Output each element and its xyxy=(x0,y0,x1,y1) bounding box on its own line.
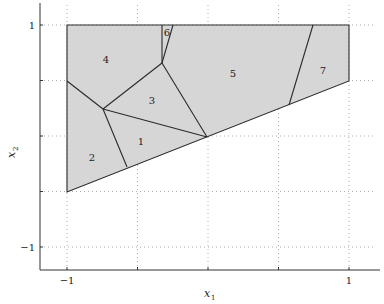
region-label-7: 7 xyxy=(320,65,326,76)
x-axis-label: x 1 xyxy=(204,287,215,302)
svg-text:x: x xyxy=(204,287,211,300)
region-label-5: 5 xyxy=(230,68,236,79)
region-label-4: 4 xyxy=(103,54,109,65)
x-tick-label-neg1: −1 xyxy=(60,275,75,286)
partition-diagram: 1 2 3 4 5 6 7 −1 1 1 −1 x 1 x 2 xyxy=(0,0,384,304)
region-label-6: 6 xyxy=(164,27,170,38)
y-tick-label-neg1: −1 xyxy=(20,242,35,253)
y-axis-label: x 2 xyxy=(5,147,20,158)
svg-text:1: 1 xyxy=(211,294,215,302)
feasible-region xyxy=(67,25,349,192)
y-tick-label-1: 1 xyxy=(29,20,35,31)
region-label-3: 3 xyxy=(149,95,155,106)
region-label-2: 2 xyxy=(89,152,95,163)
svg-text:2: 2 xyxy=(12,147,20,151)
region-label-1: 1 xyxy=(138,136,144,147)
svg-text:x: x xyxy=(5,151,18,158)
x-tick-label-1: 1 xyxy=(346,275,352,286)
